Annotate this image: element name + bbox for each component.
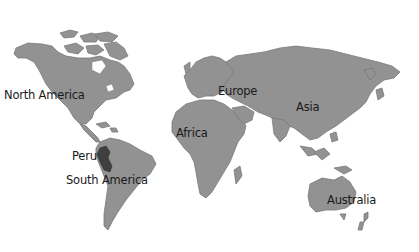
- label-peru: Peru: [72, 151, 97, 163]
- world-map: [0, 0, 419, 252]
- label-europe: Europe: [218, 86, 257, 98]
- label-north-america: North America: [4, 90, 85, 102]
- label-africa: Africa: [176, 128, 208, 140]
- africa-landmass: [172, 100, 246, 198]
- label-asia: Asia: [296, 102, 319, 114]
- central-america: [80, 124, 100, 142]
- label-south-america: South America: [66, 175, 148, 187]
- arctic-islands: [60, 30, 128, 60]
- label-australia: Australia: [327, 195, 376, 207]
